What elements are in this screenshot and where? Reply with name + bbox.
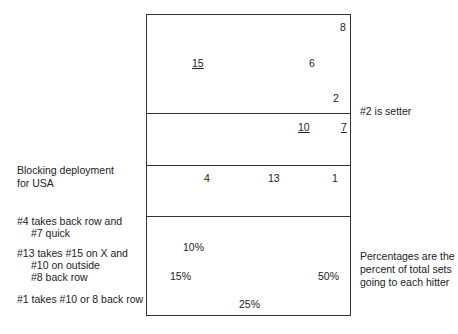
blocking-title-line1: Blocking deployment <box>17 164 114 177</box>
attack-line-far <box>146 113 351 114</box>
rule-4-line2: #7 quick <box>31 227 70 240</box>
rule-13-line3: #8 back row <box>31 271 88 284</box>
blocking-title-line2: for USA <box>17 177 54 190</box>
set-percentage: 50% <box>318 270 339 283</box>
set-percentage: 15% <box>170 270 191 283</box>
player-number: 8 <box>340 21 346 34</box>
pct-note-line2: percent of total sets <box>360 263 452 276</box>
net-line <box>146 165 351 166</box>
blocker-number: 1 <box>332 172 338 185</box>
pct-note-line1: Percentages are the <box>360 250 455 263</box>
player-number: 15 <box>192 57 204 70</box>
set-percentage: 25% <box>239 298 260 311</box>
player-number: 10 <box>298 121 310 134</box>
rule-1: #1 takes #10 or 8 back row <box>17 293 143 306</box>
blocking-diagram: 81562107413110%15%50%25% #2 is setter Bl… <box>0 0 458 334</box>
set-percentage: 10% <box>183 241 204 254</box>
blocker-number: 13 <box>268 172 280 185</box>
blocker-number: 4 <box>204 172 210 185</box>
setter-note: #2 is setter <box>360 105 411 118</box>
attack-line-near <box>146 216 351 217</box>
player-number: 7 <box>341 121 347 134</box>
player-number: 2 <box>333 92 339 105</box>
pct-note-line3: going to each hitter <box>360 276 449 289</box>
player-number: 6 <box>309 57 315 70</box>
